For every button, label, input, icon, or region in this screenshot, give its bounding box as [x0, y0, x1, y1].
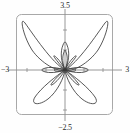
plot-canvas: [0, 0, 130, 133]
y-axis-max-label: 3.5: [0, 1, 130, 10]
x-axis-min-label: −3: [1, 65, 9, 74]
y-axis-min-label: −2.5: [0, 123, 130, 132]
polar-plot-figure: 3.5 −2.5 −3 3: [0, 0, 130, 133]
plot-frame: [17, 15, 113, 115]
x-axis-max-label: 3: [125, 65, 129, 74]
